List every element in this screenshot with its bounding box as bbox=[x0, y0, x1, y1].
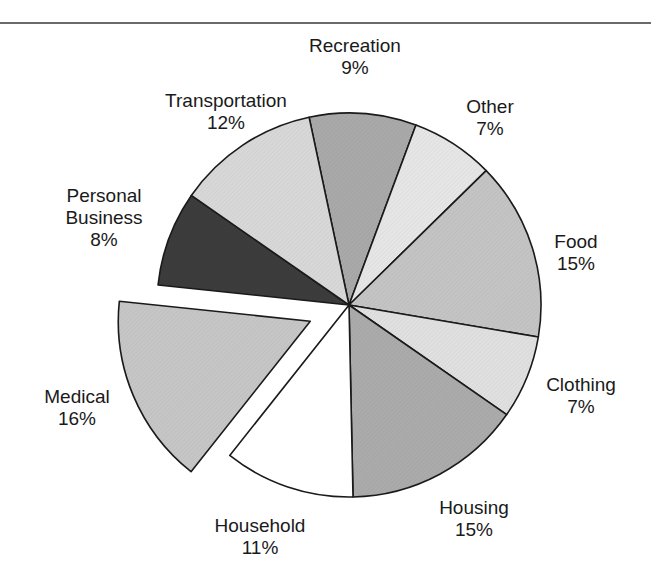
label-other: Other 7% bbox=[466, 96, 514, 140]
label-transportation-pct: 12% bbox=[165, 112, 287, 134]
label-transportation: Transportation 12% bbox=[165, 90, 287, 134]
label-personal-business-name1: Personal bbox=[65, 185, 142, 207]
label-other-pct: 7% bbox=[466, 118, 514, 140]
label-clothing-name: Clothing bbox=[546, 374, 616, 396]
label-medical-pct: 16% bbox=[44, 408, 109, 430]
label-personal-business-pct: 8% bbox=[65, 229, 142, 251]
label-transportation-name: Transportation bbox=[165, 90, 287, 112]
label-food-name: Food bbox=[554, 231, 597, 253]
label-medical: Medical 16% bbox=[44, 386, 109, 430]
label-housing-pct: 15% bbox=[439, 519, 509, 541]
label-housing: Housing 15% bbox=[439, 497, 509, 541]
label-recreation-name: Recreation bbox=[309, 35, 401, 57]
label-food-pct: 15% bbox=[554, 253, 597, 275]
label-other-name: Other bbox=[466, 96, 514, 118]
label-personal-business: Personal Business 8% bbox=[65, 185, 142, 251]
label-household-pct: 11% bbox=[215, 537, 306, 559]
label-recreation: Recreation 9% bbox=[309, 35, 401, 79]
label-housing-name: Housing bbox=[439, 497, 509, 519]
label-household-name: Household bbox=[215, 515, 306, 537]
label-medical-name: Medical bbox=[44, 386, 109, 408]
pie-chart bbox=[0, 0, 651, 582]
label-clothing-pct: 7% bbox=[546, 396, 616, 418]
label-household: Household 11% bbox=[215, 515, 306, 559]
label-clothing: Clothing 7% bbox=[546, 374, 616, 418]
pie-slices bbox=[118, 113, 541, 497]
label-recreation-pct: 9% bbox=[309, 57, 401, 79]
label-personal-business-name2: Business bbox=[65, 207, 142, 229]
label-food: Food 15% bbox=[554, 231, 597, 275]
